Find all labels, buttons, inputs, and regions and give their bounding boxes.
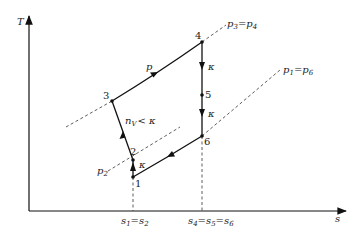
label-p-3-4: p <box>146 61 153 72</box>
label-point-4: 4 <box>195 30 201 41</box>
arrow-up-1-2 <box>130 162 136 171</box>
process-3-4 <box>112 42 202 101</box>
label-point-2: 2 <box>130 146 136 157</box>
label-kappa-4-5: κ <box>207 61 215 72</box>
arrow-down-5-6 <box>199 109 205 117</box>
point-5 <box>200 93 204 97</box>
label-s4-s5-s6: s4=s5=s6 <box>188 215 234 228</box>
label-kappa-5-6: κ <box>207 108 215 119</box>
axes: T s <box>17 16 346 224</box>
t-axis-label: T <box>17 16 25 27</box>
label-s1-s2: s1=s2 <box>121 215 149 228</box>
cycle <box>112 42 202 177</box>
entropy-tick-labels: s1=s2 s4=s5=s6 <box>121 215 234 228</box>
isobar-p3-p4-upper <box>202 25 226 42</box>
state-points <box>110 40 204 179</box>
label-isobar-p2: p2 <box>97 165 108 178</box>
label-n-2-3: nV< κ <box>125 115 156 128</box>
label-point-1: 1 <box>135 178 141 189</box>
arrow-down-4-5 <box>199 62 205 70</box>
arrow-6-1 <box>167 151 175 157</box>
point-2 <box>131 158 135 162</box>
isobar-p3-p4-lower <box>66 101 112 127</box>
entropy-guides <box>133 136 202 211</box>
label-point-6: 6 <box>204 136 210 147</box>
isobars <box>66 25 280 171</box>
label-isobar-p3-p4: p3=p4 <box>227 18 257 31</box>
point-3 <box>110 99 114 103</box>
point-labels: 1 2 3 4 5 6 <box>103 30 211 189</box>
label-point-3: 3 <box>103 90 109 101</box>
isobar-p1-p6 <box>202 70 280 136</box>
s-axis-label: s <box>335 213 340 224</box>
label-isobar-p1-p6: p1=p6 <box>283 64 314 77</box>
label-point-5: 5 <box>205 89 211 100</box>
label-kappa-1-2: κ <box>138 159 146 170</box>
t-s-diagram: T s 1 2 3 <box>0 0 364 235</box>
